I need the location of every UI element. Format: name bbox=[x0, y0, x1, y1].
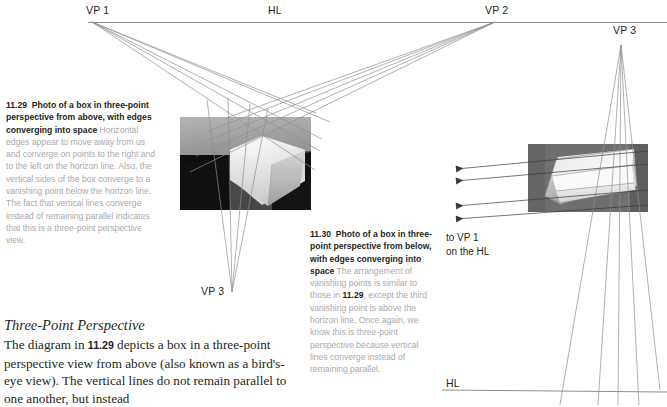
label-vp3-left: VP 3 bbox=[201, 285, 224, 297]
caption-11-30-body-ref: 11.29 bbox=[343, 290, 364, 300]
note-to-vp1-on-hl: to VP 1 on the HL bbox=[446, 231, 489, 259]
horizon-line-bottom bbox=[442, 390, 667, 392]
label-hl-bottom: HL bbox=[446, 377, 460, 389]
caption-11-29-body: Horizontal edges appear to move away fro… bbox=[6, 125, 155, 246]
lines-to-vp3-right bbox=[560, 45, 660, 405]
label-vp3-right: VP 3 bbox=[613, 24, 636, 36]
lines-from-vp2 bbox=[190, 22, 495, 172]
section-body: The diagram in 11.29 depicts a box in a … bbox=[4, 336, 288, 407]
label-hl-top: HL bbox=[268, 4, 282, 16]
photo-box-from-below bbox=[528, 144, 648, 212]
caption-11-30-body-part2: , except the third vanishing point is ab… bbox=[310, 290, 427, 374]
label-vp1: VP 1 bbox=[86, 4, 109, 16]
label-vp2: VP 2 bbox=[485, 4, 508, 16]
section-body-ref: 11.29 bbox=[88, 339, 114, 351]
section-body-part1: The diagram in bbox=[4, 337, 88, 352]
section-three-point-perspective: Three-Point Perspective The diagram in 1… bbox=[4, 316, 288, 407]
caption-11-30: 11.30 Photo of a box in three-point pers… bbox=[310, 228, 438, 376]
section-heading: Three-Point Perspective bbox=[4, 316, 288, 335]
caption-11-29-number: 11.29 bbox=[6, 100, 27, 110]
photo-box-from-above bbox=[180, 117, 311, 210]
caption-11-30-number: 11.30 bbox=[310, 229, 331, 239]
caption-11-29: 11.29 Photo of a box in three-point pers… bbox=[6, 99, 158, 247]
